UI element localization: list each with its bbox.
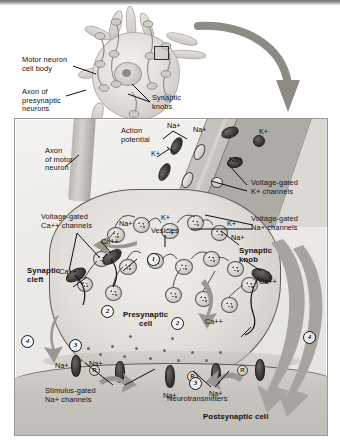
ion-label-k: K+ [161, 213, 170, 222]
ion-label-ca: Ca++ [259, 277, 277, 286]
ion-label-na: Na+ [89, 359, 103, 368]
ion-label-ca: Ca++ [59, 267, 77, 276]
ion-label-na: Na+ [167, 121, 181, 130]
label-axon-of-presynaptic-neurons: Axon of presynaptic neurons [22, 88, 61, 114]
label-axon-of-motor-neuron: Axon of motor neuron [45, 147, 73, 173]
ion-label-na: Na+ [231, 233, 245, 242]
label-presynaptic-cell: Presynaptic cell [123, 311, 168, 328]
ion-label-na: Na+ [163, 391, 177, 400]
step-number-2-right: 2 [171, 317, 184, 330]
step-number-1: 1 [147, 253, 160, 266]
upper-neuron-illustration: Motor neuron cell body Axon of presynapt… [0, 6, 340, 118]
label-synaptic-cleft: Synaptic cleft [27, 267, 60, 284]
figure-root: Motor neuron cell body Axon of presynapt… [0, 0, 340, 446]
step-number-3: 3 [69, 339, 82, 352]
label-voltage-gated-na-channels: Voltage-gated Na+ channels [251, 215, 298, 232]
step-number-4-right: 4 [303, 331, 316, 344]
label-postsynaptic-cell: Postsynaptic cell [203, 413, 268, 422]
step-number-3-right: 3 [189, 377, 202, 390]
label-action-potential: Action potential [121, 127, 150, 144]
ion-label-k: K+ [151, 149, 160, 158]
zoom-in-arrow-icon [196, 20, 306, 124]
label-voltage-gated-k-channels: Voltage-gated K+ channels [251, 179, 298, 196]
label-voltage-gated-ca-channels: Voltage-gated Ca++ channels [41, 213, 92, 230]
ion-label-na: Na+ [55, 361, 69, 370]
ion-label-na: Na+ [119, 219, 133, 228]
label-motor-neuron-cell-body: Motor neuron cell body [22, 56, 67, 73]
ion-label-ca: Ca++ [101, 237, 119, 246]
ion-label-k: K+ [227, 219, 236, 228]
step-number-4-left: 4 [21, 335, 34, 348]
scan-top-strip [0, 0, 340, 5]
step-number-2: 2 [101, 305, 114, 318]
magnified-synapse-panel: R R R [14, 118, 328, 436]
label-stimulus-gated-na-channels: Stimulus-gated Na+ channels [45, 387, 96, 404]
label-synaptic-knob: Synaptic knob [239, 247, 272, 264]
ion-label-na: Na+ [229, 155, 243, 164]
label-synaptic-knobs: Synaptic knobs [152, 94, 181, 111]
ion-label-ca: Ca++ [205, 317, 223, 326]
label-vesicles: Vesicles [151, 227, 179, 236]
ion-label-na: Na+ [209, 389, 223, 398]
ion-label-na: Na+ [193, 125, 207, 134]
ion-label-k: K+ [259, 127, 268, 136]
